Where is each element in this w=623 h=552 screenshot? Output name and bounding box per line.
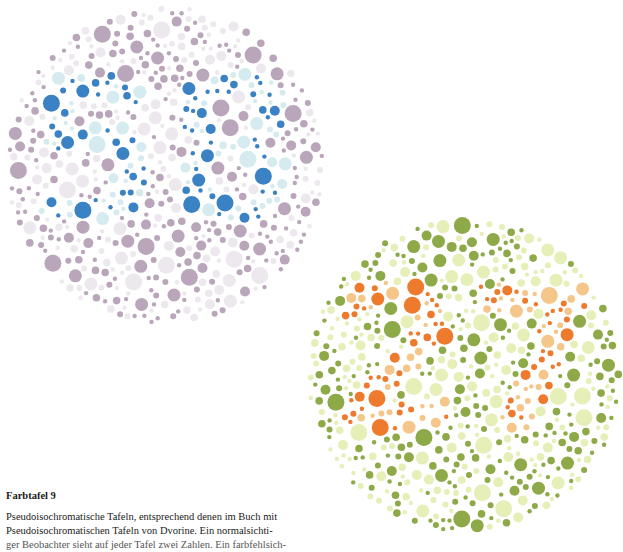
figure-dot <box>198 188 202 192</box>
figure-dot <box>427 311 435 319</box>
background-dot <box>569 422 573 426</box>
background-dot <box>297 220 301 224</box>
background-dot <box>212 311 218 317</box>
figure-dot <box>396 370 402 376</box>
background-dot <box>68 41 72 45</box>
background-dot <box>121 235 134 248</box>
background-dot <box>500 277 504 281</box>
background-dot <box>534 309 544 319</box>
background-dot <box>518 346 526 354</box>
figure-dot <box>510 298 514 302</box>
figure-dot <box>408 407 414 413</box>
figure-dot <box>260 90 264 94</box>
background-dot <box>120 216 124 220</box>
background-dot <box>429 383 442 396</box>
figure-dot <box>112 139 120 147</box>
figure-dot <box>385 365 395 375</box>
figure-dot <box>516 395 520 399</box>
figure-dot <box>255 75 259 79</box>
background-dot <box>27 186 31 190</box>
figure-dot <box>109 173 119 183</box>
background-dot <box>41 74 45 78</box>
background-dot <box>607 395 613 401</box>
background-dot <box>566 446 572 452</box>
background-dot <box>314 330 320 336</box>
figure-dot <box>44 139 50 145</box>
background-dot <box>537 453 545 461</box>
background-dot <box>335 317 339 321</box>
background-dot <box>395 501 401 507</box>
background-dot <box>293 98 297 102</box>
background-dot <box>466 472 472 478</box>
background-dot <box>458 476 466 484</box>
figure-dot <box>557 322 563 328</box>
background-dot <box>295 248 299 252</box>
background-dot <box>498 247 502 251</box>
background-dot <box>103 259 111 267</box>
background-dot <box>149 288 153 292</box>
background-dot <box>240 287 250 297</box>
background-dot <box>392 434 400 442</box>
background-dot <box>191 38 199 46</box>
figure-dot <box>180 163 190 173</box>
background-dot <box>184 258 192 266</box>
figure-dot <box>138 155 144 161</box>
background-dot <box>114 109 118 113</box>
background-dot <box>116 15 126 25</box>
background-dot <box>198 32 204 38</box>
background-dot <box>204 220 208 224</box>
background-dot <box>229 22 239 32</box>
figure-dot <box>194 122 200 128</box>
background-dot <box>125 313 131 319</box>
background-dot <box>328 447 332 451</box>
background-dot <box>450 526 454 530</box>
figure-dot <box>136 142 146 152</box>
background-dot <box>599 402 603 406</box>
figure-dot <box>545 312 549 316</box>
figure-dot <box>538 394 548 404</box>
background-dot <box>415 227 419 231</box>
background-dot <box>336 426 344 434</box>
figure-dot <box>382 376 388 382</box>
background-dot <box>504 435 512 443</box>
background-dot <box>243 173 247 177</box>
background-dot <box>590 451 594 455</box>
figure-dot <box>123 92 131 100</box>
figure-dot <box>508 410 516 418</box>
figure-dot <box>128 163 134 169</box>
background-dot <box>56 160 64 168</box>
figure-dot <box>499 296 503 300</box>
figure-dot <box>77 74 85 82</box>
figure-dot <box>76 85 89 98</box>
background-dot <box>162 279 168 285</box>
background-dot <box>517 279 525 287</box>
background-dot <box>477 266 490 279</box>
background-dot <box>269 55 277 63</box>
background-dot <box>152 302 156 306</box>
background-dot <box>251 267 268 284</box>
background-dot <box>552 431 556 435</box>
background-dot <box>130 114 136 120</box>
figure-dot <box>230 72 236 78</box>
background-dot <box>389 443 395 449</box>
figure-dot <box>70 126 74 130</box>
background-dot <box>167 92 171 96</box>
background-dot <box>40 224 48 232</box>
background-dot <box>559 424 565 430</box>
background-dot <box>178 43 186 51</box>
figure-dot <box>364 382 370 388</box>
figure-dot <box>52 72 65 85</box>
background-dot <box>447 518 451 522</box>
background-dot <box>158 201 164 207</box>
figure-dot <box>384 281 388 285</box>
figure-dot <box>542 324 546 328</box>
background-dot <box>126 110 130 114</box>
background-dot <box>151 99 161 109</box>
background-dot <box>487 454 491 458</box>
background-dot <box>40 236 44 240</box>
background-dot <box>596 413 606 423</box>
background-dot <box>300 151 313 164</box>
figure-dot <box>537 329 541 333</box>
figure-dot <box>522 298 528 304</box>
background-dot <box>69 54 75 60</box>
